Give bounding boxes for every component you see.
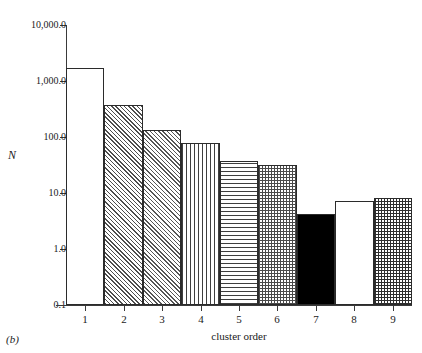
x-axis-tick-label: 3 bbox=[147, 313, 177, 325]
x-axis-tick bbox=[162, 306, 163, 311]
bar-cluster-7 bbox=[297, 214, 335, 305]
y-axis-tick-label: 100.0 bbox=[10, 132, 66, 142]
bar-cluster-5 bbox=[220, 161, 258, 305]
figure-panel-b: 10,000.01,000.0100.010.01.00.1 123456789… bbox=[0, 0, 422, 353]
plot-area bbox=[66, 25, 412, 305]
bar-cluster-3 bbox=[143, 130, 181, 305]
y-axis-tick-label: 1,000.0 bbox=[10, 76, 66, 86]
x-axis-tick bbox=[316, 306, 317, 311]
x-axis-tick bbox=[201, 306, 202, 311]
y-axis-tick-label-wrap: 1,000.0 bbox=[0, 76, 66, 86]
bar-cluster-1 bbox=[66, 68, 104, 305]
y-axis-tick-label: 1.0 bbox=[10, 244, 66, 254]
x-axis-tick bbox=[124, 306, 125, 311]
x-axis-tick-label: 4 bbox=[186, 313, 216, 325]
x-axis-tick-label: 6 bbox=[262, 313, 292, 325]
x-axis-tick-label: 7 bbox=[301, 313, 331, 325]
y-axis-tick-label-wrap: 1.0 bbox=[0, 244, 66, 254]
y-axis-tick-label-wrap: 10,000.0 bbox=[0, 20, 66, 30]
x-axis-line bbox=[56, 305, 412, 306]
y-axis-tick-label: 10.0 bbox=[10, 188, 66, 198]
y-axis-tick-label: 10,000.0 bbox=[10, 20, 66, 30]
x-axis-tick-label: 9 bbox=[378, 313, 408, 325]
x-axis-tick bbox=[239, 306, 240, 311]
bar-cluster-6 bbox=[258, 165, 296, 305]
y-axis-title: N bbox=[8, 148, 16, 163]
x-axis-tick-label: 2 bbox=[109, 313, 139, 325]
x-axis-tick bbox=[277, 306, 278, 311]
panel-label: (b) bbox=[6, 333, 19, 345]
x-axis-tick bbox=[393, 306, 394, 311]
bar-cluster-9 bbox=[374, 198, 412, 305]
y-axis-tick-label-wrap: 10.0 bbox=[0, 188, 66, 198]
bar-cluster-8 bbox=[335, 201, 373, 305]
bar-cluster-2 bbox=[104, 105, 142, 305]
x-axis-tick-label: 1 bbox=[70, 313, 100, 325]
x-axis-tick bbox=[354, 306, 355, 311]
bar-cluster-4 bbox=[181, 143, 219, 305]
y-axis-tick-label-wrap: 100.0 bbox=[0, 132, 66, 142]
x-axis-tick-label: 8 bbox=[339, 313, 369, 325]
x-axis-title: cluster order bbox=[66, 330, 412, 342]
x-axis-tick-label: 5 bbox=[224, 313, 254, 325]
x-axis-tick bbox=[85, 306, 86, 311]
